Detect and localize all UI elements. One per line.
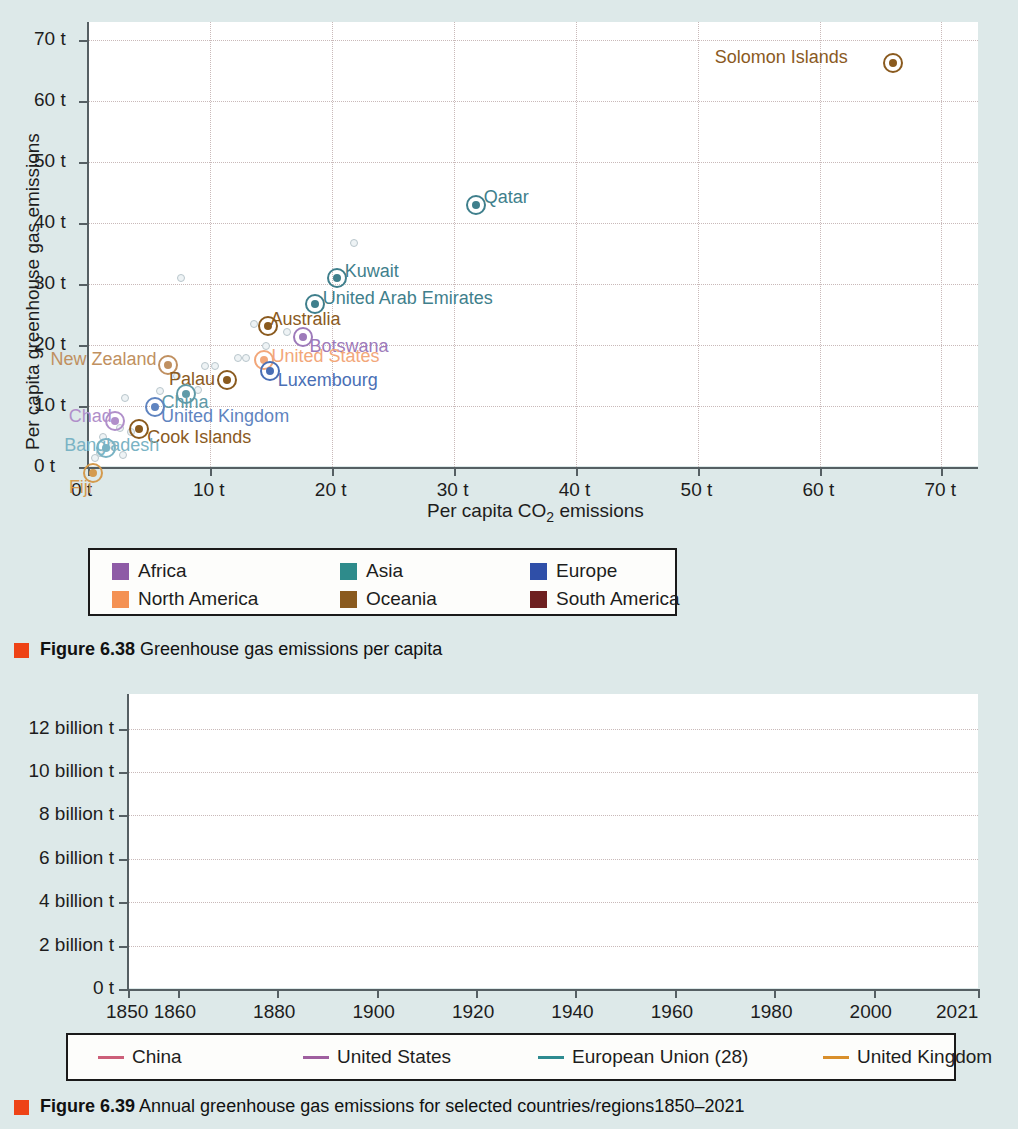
- scatter-point-label: New Zealand: [50, 349, 156, 370]
- chart1-ytick-label: 10 t: [34, 394, 66, 416]
- scatter-point-dot[interactable]: [135, 425, 143, 433]
- scatter-point-dot[interactable]: [299, 333, 307, 341]
- chart1-gridline-v: [576, 22, 577, 467]
- caption-639-marker: [14, 1100, 29, 1115]
- chart2-xtick: [874, 989, 876, 998]
- chart2-ytick: [119, 815, 128, 817]
- chart1-xtick-label: 50 t: [681, 479, 713, 501]
- legend-line-icon: [98, 1056, 124, 1059]
- chart2-xtick: [178, 989, 180, 998]
- chart1-xtick: [576, 467, 578, 476]
- scatter-point-dot[interactable]: [333, 274, 341, 282]
- chart1-xtick: [210, 467, 212, 476]
- chart2-gridline-h: [128, 902, 978, 903]
- scatter-point[interactable]: [121, 394, 129, 402]
- chart1-ytick: [79, 101, 88, 103]
- chart2-xtick-label: 1920: [452, 1001, 494, 1023]
- chart2-xtick-label: 2021: [936, 1001, 978, 1023]
- legend-label: China: [132, 1046, 182, 1068]
- legend-item-south-america[interactable]: South America: [530, 588, 680, 610]
- chart2-xtick-label: 1900: [353, 1001, 395, 1023]
- legend-line-icon: [823, 1056, 849, 1059]
- chart1-ytick: [79, 223, 88, 225]
- chart2-xtick: [774, 989, 776, 998]
- scatter-point-dot[interactable]: [311, 300, 319, 308]
- chart1-ytick-label: 40 t: [34, 211, 66, 233]
- scatter-point-dot[interactable]: [89, 469, 97, 477]
- legend-label: United States: [337, 1046, 451, 1068]
- legend-item-china[interactable]: China: [98, 1046, 182, 1068]
- scatter-point-dot[interactable]: [472, 201, 480, 209]
- scatter-point-label: Fiji: [69, 477, 92, 498]
- chart2-xtick-label: 1850: [106, 1001, 148, 1023]
- legend-swatch-icon: [530, 563, 547, 580]
- chart2-gridline-h: [128, 859, 978, 860]
- chart2-xtick: [377, 989, 379, 998]
- chart1-gridline-v: [454, 22, 455, 467]
- scatter-point[interactable]: [234, 354, 242, 362]
- chart1-gridline-v: [698, 22, 699, 467]
- legend-item-united-states[interactable]: United States: [303, 1046, 451, 1068]
- chart2-ytick-label: 4 billion t: [10, 890, 114, 912]
- chart2-ytick: [119, 729, 128, 731]
- chart1-plot-area: [88, 22, 978, 466]
- scatter-point[interactable]: [350, 239, 358, 247]
- scatter-point-dot[interactable]: [111, 417, 119, 425]
- textbook-page: Per capita greenhouse gas emissions 0 t1…: [0, 0, 1018, 1129]
- legend-item-oceania[interactable]: Oceania: [340, 588, 437, 610]
- scatter-point-dot[interactable]: [151, 403, 159, 411]
- caption-639-label: Figure 6.39: [40, 1096, 135, 1116]
- legend-item-asia[interactable]: Asia: [340, 560, 403, 582]
- chart1-ytick: [79, 345, 88, 347]
- chart1-xtick: [820, 467, 822, 476]
- legend-item-europe[interactable]: Europe: [530, 560, 617, 582]
- chart1-gridline-h: [88, 162, 978, 163]
- scatter-point[interactable]: [177, 274, 185, 282]
- legend-label: South America: [556, 588, 680, 610]
- caption-638-marker: [14, 643, 29, 658]
- chart1-xtick-label: 20 t: [315, 479, 347, 501]
- legend-label: North America: [138, 588, 258, 610]
- chart2-ytick-label: 10 billion t: [10, 760, 114, 782]
- chart1-xtick: [454, 467, 456, 476]
- chart1-xtick-label: 60 t: [803, 479, 835, 501]
- chart1-ytick: [79, 284, 88, 286]
- chart1-xtick-label: 30 t: [437, 479, 469, 501]
- chart2-ytick: [119, 902, 128, 904]
- chart1-x-axis-title: Per capita CO2 emissions: [427, 500, 644, 525]
- legend-swatch-icon: [340, 563, 357, 580]
- chart2-xtick: [978, 989, 980, 998]
- chart2-xtick: [575, 989, 577, 998]
- legend-label: United Kingdom: [857, 1046, 992, 1068]
- chart1-ytick-label: 0 t: [34, 455, 55, 477]
- figure-639-legend: ChinaUnited StatesEuropean Union (28)Uni…: [66, 1033, 956, 1081]
- figure-638-legend: AfricaAsiaEuropeNorth AmericaOceaniaSout…: [88, 548, 677, 616]
- legend-label: Europe: [556, 560, 617, 582]
- chart2-gridline-h: [128, 815, 978, 816]
- chart1-gridline-v: [210, 22, 211, 467]
- chart2-ytick: [119, 772, 128, 774]
- chart2-ytick-label: 8 billion t: [10, 803, 114, 825]
- chart1-gridline-v: [332, 22, 333, 467]
- chart2-xtick-label: 1880: [253, 1001, 295, 1023]
- legend-item-africa[interactable]: Africa: [112, 560, 187, 582]
- chart2-ytick: [119, 946, 128, 948]
- chart1-y-axis-line: [87, 22, 89, 468]
- chart2-xtick-label: 2000: [850, 1001, 892, 1023]
- chart2-x-axis-line: [127, 989, 978, 991]
- chart2-ytick-label: 6 billion t: [10, 847, 114, 869]
- chart1-xtick-label: 10 t: [193, 479, 225, 501]
- legend-item-european-union-28-[interactable]: European Union (28): [538, 1046, 748, 1068]
- chart1-gridline-h: [88, 284, 978, 285]
- scatter-point[interactable]: [262, 342, 270, 350]
- chart1-ytick: [79, 162, 88, 164]
- figure-639-line-chart: 1850186018801900192019401960198020002021…: [0, 688, 1018, 1068]
- legend-item-united-kingdom[interactable]: United Kingdom: [823, 1046, 992, 1068]
- legend-item-north-america[interactable]: North America: [112, 588, 258, 610]
- chart2-xtick: [277, 989, 279, 998]
- scatter-point-label: Kuwait: [345, 261, 399, 282]
- scatter-point-dot[interactable]: [266, 367, 274, 375]
- chart1-gridline-v: [820, 22, 821, 467]
- chart1-ytick-label: 50 t: [34, 150, 66, 172]
- chart2-xtick: [476, 989, 478, 998]
